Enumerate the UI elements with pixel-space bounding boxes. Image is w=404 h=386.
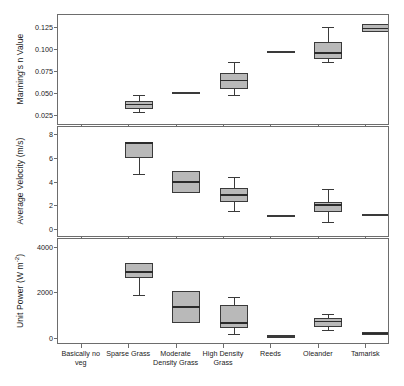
y-tick-mark	[54, 49, 57, 50]
y-tick-label: 0.125	[20, 22, 53, 31]
panel-unit-power	[57, 238, 389, 344]
y-tick-mark	[54, 247, 57, 248]
y-tick-label: 6	[20, 153, 53, 162]
y-tick-mark	[54, 27, 57, 28]
y-tick-label: 8	[20, 130, 53, 139]
y-tick-mark	[54, 292, 57, 293]
y-tick-mark	[54, 182, 57, 183]
x-tick-mark	[223, 344, 224, 348]
boxplot-group	[58, 15, 388, 124]
y-tick-label: 2	[20, 201, 53, 210]
x-tick-mark	[270, 344, 271, 348]
y-tick-label: 2000	[20, 288, 53, 297]
x-tick-label-3: High Density Grass	[197, 350, 248, 367]
plot-area-average-velocity	[58, 127, 388, 236]
y-tick-mark	[54, 134, 57, 135]
y-tick-label: 0	[20, 224, 53, 233]
y-tick-label: 4000	[20, 242, 53, 251]
y-tick-mark	[54, 338, 57, 339]
y-tick-label: 0	[20, 333, 53, 342]
x-tick-label-6: Tamarisk	[340, 350, 391, 359]
boxplot-group	[58, 239, 388, 343]
y-tick-label: 0.050	[20, 88, 53, 97]
panel-mannings-n	[57, 14, 389, 125]
y-tick-mark	[54, 229, 57, 230]
x-tick-label-2: Moderate Density Grass	[150, 350, 201, 367]
y-tick-label: 4	[20, 177, 53, 186]
y-tick-mark	[54, 93, 57, 94]
plot-area-mannings-n	[58, 15, 388, 124]
x-tick-mark	[81, 344, 82, 348]
x-tick-mark	[128, 344, 129, 348]
boxplot-figure: Manning's n Value0.0250.0500.0750.1000.1…	[0, 0, 404, 386]
y-tick-mark	[54, 158, 57, 159]
x-tick-label-0: Basically no veg	[55, 350, 106, 367]
panel-average-velocity	[57, 126, 389, 237]
y-tick-label: 0.075	[20, 66, 53, 75]
y-tick-mark	[54, 115, 57, 116]
y-tick-mark	[54, 71, 57, 72]
y-tick-mark	[54, 205, 57, 206]
x-tick-label-5: Oleander	[292, 350, 343, 359]
x-tick-mark	[176, 344, 177, 348]
y-tick-label: 0.100	[20, 44, 53, 53]
x-tick-label-1: Sparse Grass	[102, 350, 153, 359]
y-tick-label: 0.025	[20, 111, 53, 120]
plot-area-unit-power	[58, 239, 388, 343]
boxplot-group	[58, 127, 388, 236]
x-tick-mark	[365, 344, 366, 348]
x-tick-mark	[318, 344, 319, 348]
x-tick-label-4: Reeds	[245, 350, 296, 359]
